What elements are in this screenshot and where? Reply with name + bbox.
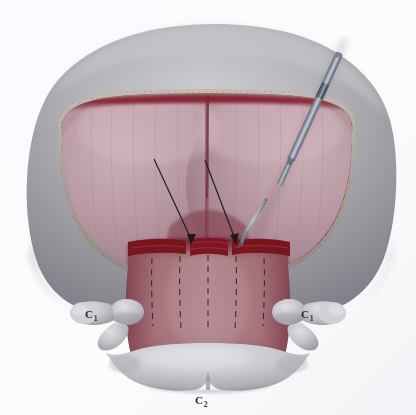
anatomical-figure: C 1 C 1 C 2 [0, 0, 416, 415]
illustration-canvas: C 1 C 1 C 2 [0, 0, 416, 415]
label-c1-right-letter: C [301, 308, 309, 320]
label-c1-left-letter: C [85, 308, 93, 320]
label-c1-left-subscript: 1 [94, 314, 98, 323]
label-c1-right-subscript: 1 [310, 314, 314, 323]
label-c2-subscript: 2 [204, 400, 208, 409]
label-c2-letter: C [195, 394, 203, 406]
